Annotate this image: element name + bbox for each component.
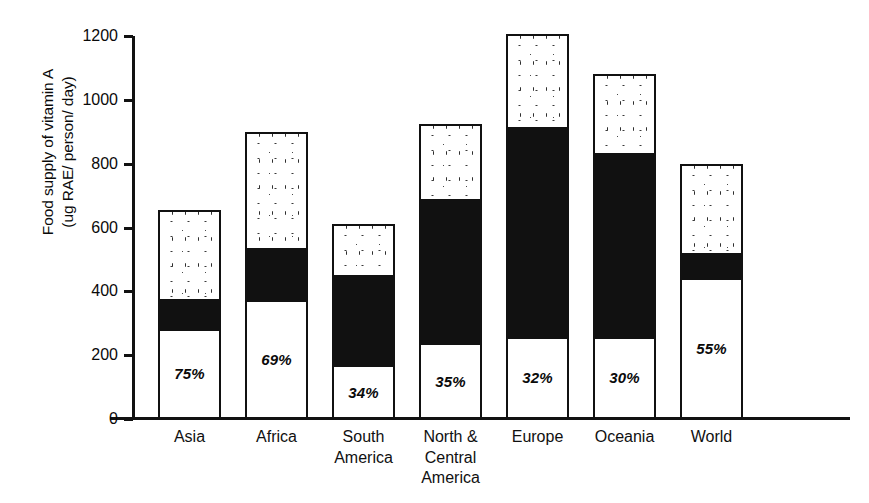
y-axis-tick-mark [124,99,133,102]
y-axis-tick-label: 200 [28,347,118,363]
bar-group[interactable]: 30% [593,36,656,419]
bar-segment-stippled [506,34,569,127]
y-axis-tick-label-text: 200 [28,347,118,363]
y-axis-tick-label-text: 1200 [28,28,118,44]
bar-segment-stippled [680,164,743,253]
y-axis-tick-label: 0 [28,411,118,427]
bar-segment-stippled [158,210,221,299]
bar-segment-stippled [593,74,656,152]
bar-segment-black [593,153,656,338]
y-axis-tick-label: 1200 [28,28,118,44]
y-axis-tick-mark [124,418,133,421]
bar-stack: 30% [593,36,656,419]
bar-segment-black [245,248,308,301]
bar-segment-white: 55% [680,279,743,419]
bar-segment-white: 32% [506,338,569,419]
y-axis-tick-mark [124,227,133,230]
bar-segment-white: 34% [332,366,395,419]
bar-group[interactable]: 55% [680,36,743,419]
bar-percent-label: 35% [421,373,480,390]
bar-group[interactable]: 69% [245,36,308,419]
y-axis-tick-label: 600 [28,220,118,236]
bar-segment-white: 75% [158,330,221,419]
bar-segment-white: 30% [593,338,656,419]
y-axis-tick-label-text: 800 [28,156,118,172]
bar-segment-white: 35% [419,344,482,419]
bar-stack: 69% [245,36,308,419]
y-axis-tick-mark [124,35,133,38]
y-axis-tick-label-text: 0 [28,411,118,427]
bar-percent-label: 34% [334,384,393,401]
y-axis-tick-label-text: 400 [28,283,118,299]
bar-stack: 32% [506,36,569,419]
y-axis-tick-label-text: 600 [28,220,118,236]
y-axis-tick-mark [124,290,133,293]
bar-stack: 75% [158,36,221,419]
y-axis-tick-label: 400 [28,283,118,299]
plot-area: 75%69%34%35%32%30%55% [135,36,850,419]
y-axis-tick-mark [124,354,133,357]
bar-stack: 34% [332,36,395,419]
bar-group[interactable]: 35% [419,36,482,419]
bar-percent-label: 75% [160,365,219,382]
bar-percent-label: 32% [508,369,567,386]
bar-segment-black [332,275,395,366]
bar-segment-black [680,253,743,279]
bar-segment-white: 69% [245,301,308,419]
y-axis-tick-label: 800 [28,156,118,172]
bar-group[interactable]: 75% [158,36,221,419]
bar-segment-black [419,199,482,344]
bar-segment-stippled [245,132,308,248]
y-axis-tick-label-text: 1000 [28,92,118,108]
y-axis-tick-mark [124,163,133,166]
bar-group[interactable]: 32% [506,36,569,419]
x-axis-category-label: World [657,427,767,448]
bar-group[interactable]: 34% [332,36,395,419]
bar-segment-black [158,299,221,329]
bar-stack: 55% [680,36,743,419]
y-axis-tick-label: 1000 [28,92,118,108]
bar-segment-stippled [419,124,482,199]
bar-percent-label: 30% [595,369,654,386]
bar-segment-stippled [332,224,395,275]
bar-percent-label: 55% [682,340,741,357]
y-axis-title: Food supply of vitamin A (ug RAE/ person… [36,2,80,302]
bar-stack: 35% [419,36,482,419]
vitamin-a-supply-bar-chart: Food supply of vitamin A (ug RAE/ person… [0,0,869,503]
bar-segment-black [506,127,569,338]
bar-percent-label: 69% [247,351,306,368]
